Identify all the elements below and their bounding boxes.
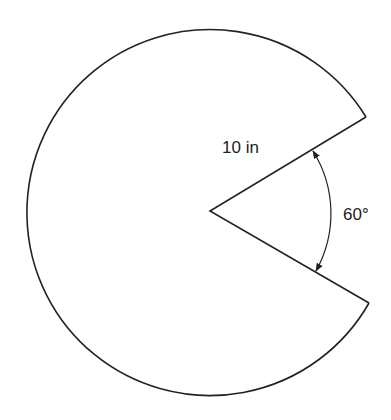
angle-label: 60° [343, 206, 369, 223]
outer-arc [27, 30, 369, 396]
sector-figure [0, 0, 391, 420]
angle-dimension-arc [313, 151, 331, 271]
radius-label: 10 in [222, 139, 259, 156]
diagram-canvas: 10 in 60° [0, 0, 391, 420]
